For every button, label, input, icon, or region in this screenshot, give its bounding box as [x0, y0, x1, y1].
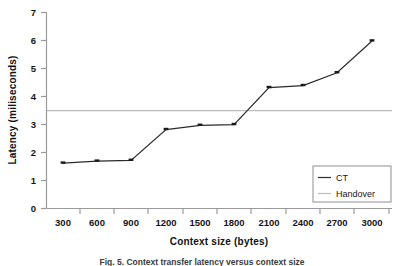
y-tick-label: 6 — [31, 35, 36, 46]
y-tick-label: 4 — [31, 91, 37, 102]
x-tick-label: 2700 — [326, 217, 347, 228]
y-tick-label: 2 — [31, 147, 36, 158]
y-tick-label: 7 — [31, 7, 36, 18]
legend-label-handover: Handover — [336, 189, 375, 199]
x-axis-ticks — [80, 209, 389, 215]
figure-caption: Fig. 5. Context transfer latency versus … — [0, 256, 404, 266]
x-axis-title: Context size (bytes) — [170, 236, 268, 247]
x-tick-label: 1500 — [189, 217, 210, 228]
y-tick-label: 0 — [31, 203, 36, 214]
chart-legend[interactable]: CT Handover — [313, 166, 391, 202]
x-tick-label: 600 — [89, 217, 105, 228]
figure-container: 0 1 2 3 4 5 6 7 300 600 900 1200 — [0, 0, 404, 266]
y-tick-label: 1 — [31, 175, 37, 186]
x-tick-label: 1800 — [223, 217, 244, 228]
y-axis-title: Latency (miliseconds) — [7, 55, 18, 164]
x-tick-label: 2400 — [292, 217, 313, 228]
x-tick-label: 1200 — [155, 217, 176, 228]
y-tick-label: 3 — [31, 119, 36, 130]
series-ct-markers — [61, 39, 375, 164]
x-tick-label: 900 — [123, 217, 139, 228]
y-tick-label: 5 — [31, 63, 37, 74]
y-axis-ticks — [41, 13, 47, 209]
series-ct-line — [63, 41, 372, 163]
x-axis-tick-labels: 300 600 900 1200 1500 1800 2100 2400 270… — [55, 217, 383, 228]
legend-label-ct: CT — [336, 173, 348, 183]
x-tick-label: 300 — [55, 217, 71, 228]
x-tick-label: 2100 — [258, 217, 279, 228]
latency-line-chart: 0 1 2 3 4 5 6 7 300 600 900 1200 — [0, 0, 404, 266]
y-axis-tick-labels: 0 1 2 3 4 5 6 7 — [31, 7, 37, 214]
x-tick-label: 3000 — [361, 217, 382, 228]
